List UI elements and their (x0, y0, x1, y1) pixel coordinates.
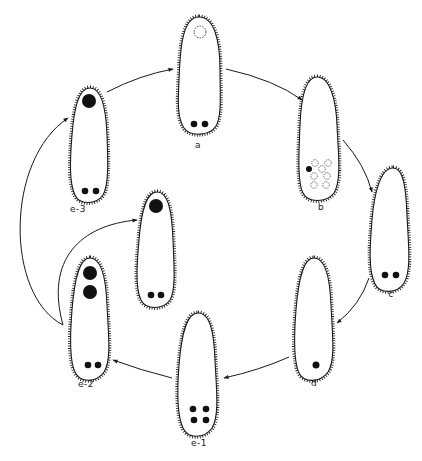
cell-a (178, 17, 220, 134)
stage-label-b: b (318, 202, 324, 212)
arrow-e3-to-a (107, 69, 173, 92)
micronucleus (382, 272, 389, 279)
micronucleus (313, 362, 320, 369)
stage-label-e-1: e-1 (191, 438, 207, 448)
stage-label-e-2: e-2 (78, 379, 94, 389)
micronucleus (191, 121, 198, 128)
micronucleus (82, 188, 89, 195)
macronucleus (83, 285, 97, 299)
macronucleus (82, 94, 96, 108)
micronucleus (203, 417, 210, 424)
micronucleus (93, 188, 100, 195)
arrow-a-to-b (226, 69, 302, 100)
cell-d (294, 258, 332, 380)
arrow-e2-to-e3 (20, 118, 68, 325)
cell-e-1 (178, 313, 217, 436)
arrow-b-to-c (343, 140, 372, 192)
cell-e-3 (70, 88, 107, 203)
stage-label-a: a (195, 140, 201, 150)
stage-label-c: c (388, 289, 393, 299)
micronucleus (148, 292, 155, 299)
life-cycle-diagram (0, 0, 422, 461)
micronucleus (190, 406, 197, 413)
micronucleus (158, 292, 165, 299)
cell-c (370, 168, 409, 291)
cell-membrane (178, 313, 217, 436)
arrow-c-to-d (337, 278, 369, 323)
cell-membrane (370, 168, 409, 291)
stage-label-e-3: e-3 (70, 204, 86, 214)
micronucleus (203, 406, 210, 413)
cell-b (299, 77, 339, 201)
micronucleus (202, 121, 209, 128)
macronucleus (149, 199, 163, 213)
cell-membrane (294, 258, 332, 380)
cell-membrane (178, 17, 220, 134)
micronucleus (191, 417, 198, 424)
micronucleus (95, 362, 102, 369)
arrow-d-to-e1 (224, 357, 289, 378)
cell-e-2 (70, 258, 108, 380)
micronucleus (393, 272, 400, 279)
stage-label-d: d (311, 378, 317, 388)
arrow-e1-to-e2 (113, 360, 172, 378)
micronucleus (85, 362, 92, 369)
cell-membrane (299, 77, 339, 201)
macronucleus (83, 266, 97, 280)
micronucleus (306, 166, 312, 172)
cell-e-2-daughter (137, 192, 174, 308)
